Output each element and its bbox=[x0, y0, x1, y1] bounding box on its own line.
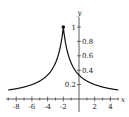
y-tick-label: 0.6 bbox=[82, 52, 94, 60]
y-tick-label: 0.2 bbox=[65, 81, 76, 89]
curve bbox=[8, 25, 118, 90]
y-axis-label: y bbox=[77, 9, 83, 17]
function-graph: xy -8-6-4-2240.20.40.60.81 bbox=[0, 0, 129, 117]
x-tick-label: -2 bbox=[60, 103, 67, 111]
y-tick-label: 0.8 bbox=[82, 38, 93, 46]
x-tick-label: -6 bbox=[28, 103, 35, 111]
function-curve bbox=[8, 27, 118, 90]
axes: xy bbox=[6, 9, 125, 112]
x-tick-label: 4 bbox=[108, 103, 113, 111]
x-tick-label: -8 bbox=[13, 103, 20, 111]
x-tick-label: -4 bbox=[44, 103, 51, 111]
peak-point bbox=[62, 25, 66, 29]
y-tick-label: 1 bbox=[72, 24, 76, 32]
x-tick-label: 2 bbox=[92, 103, 96, 111]
ticks: -8-6-4-2240.20.40.60.81 bbox=[8, 24, 118, 112]
x-axis-label: x bbox=[121, 96, 125, 104]
y-tick-label: 0.4 bbox=[82, 67, 94, 75]
